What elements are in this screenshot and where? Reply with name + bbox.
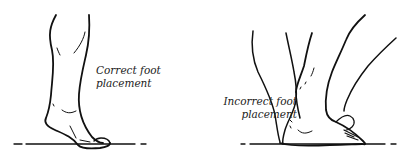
caption-line: Correct foot <box>96 64 161 77</box>
caption-line: Incorrect foot <box>187 95 297 108</box>
incorrect-placement-caption: Incorrect foot placement <box>187 95 297 121</box>
line-art <box>0 0 406 163</box>
caption-line: placement <box>96 77 161 90</box>
caption-line: placement <box>187 108 297 121</box>
foot-placement-illustration: Correct foot placement Incorrect foot pl… <box>0 0 406 163</box>
incorrect-foot-drawing <box>241 15 396 146</box>
correct-placement-caption: Correct foot placement <box>96 64 161 90</box>
